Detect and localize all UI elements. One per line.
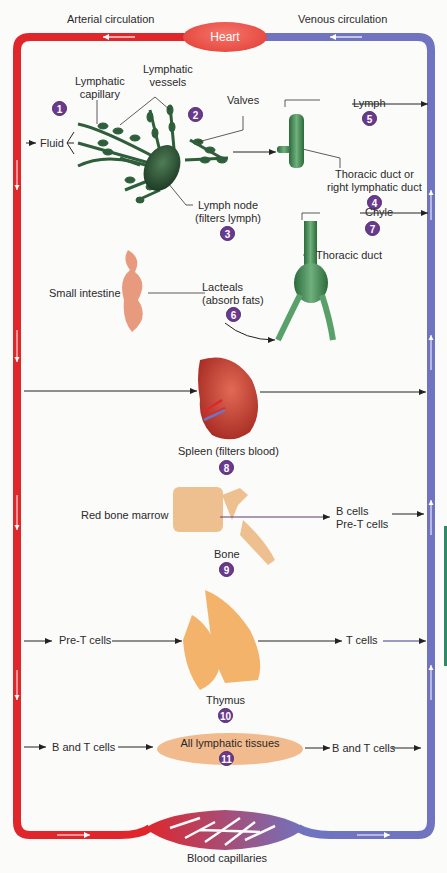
lymph-node-label: Lymph node (filters lymph) bbox=[195, 199, 261, 225]
thoracic-or-right-lymphatic-duct-label: Thoracic duct or right lymphatic duct bbox=[327, 168, 422, 194]
chyle-label: Chyle bbox=[365, 206, 393, 219]
red-bone-marrow-label: Red bone marrow bbox=[81, 509, 168, 522]
b-and-t-cells-output-label: B and T cells bbox=[332, 742, 395, 755]
label-line: vessels bbox=[143, 76, 193, 89]
venous-circulation-vessel bbox=[260, 37, 431, 835]
blood-capillaries-label: Blood capillaries bbox=[187, 852, 267, 865]
t-cells-output-label: T cells bbox=[346, 634, 378, 647]
lymphatic-vessels-label: Lymphatic vessels bbox=[143, 63, 193, 89]
label-line: Lymphatic bbox=[75, 75, 125, 88]
small-intestine-label: Small intestine bbox=[49, 287, 121, 300]
label-line: capillary bbox=[75, 88, 125, 101]
all-lymphatic-tissues-label: All lymphatic tissues bbox=[157, 737, 303, 750]
thymus-shape bbox=[183, 590, 260, 690]
thoracic-duct-shape-upper bbox=[277, 114, 304, 168]
valves-label: Valves bbox=[227, 94, 259, 107]
label-line: (absorb fats) bbox=[202, 294, 264, 307]
lymph-node-shape bbox=[136, 139, 187, 197]
venous-circulation-label: Venous circulation bbox=[298, 13, 387, 26]
step-badge-6: 6 bbox=[226, 307, 241, 322]
thoracic-duct-label: Thoracic duct bbox=[316, 249, 382, 262]
step-badge-8: 8 bbox=[219, 460, 234, 475]
label-line: Lymphatic bbox=[143, 63, 193, 76]
b-and-t-cells-input-label: B and T cells bbox=[52, 741, 115, 754]
small-intestine-shape bbox=[122, 250, 143, 332]
bone-outputs-label: B cells Pre-T cells bbox=[336, 505, 388, 531]
label-line: Thoracic duct or bbox=[327, 168, 422, 181]
label-line: Lymph node bbox=[195, 199, 261, 212]
step-badge-2: 2 bbox=[188, 107, 203, 122]
label-line: (filters lymph) bbox=[195, 212, 261, 225]
label-line: Pre-T cells bbox=[336, 518, 388, 531]
thoracic-duct-shape-lower bbox=[278, 221, 333, 340]
pre-t-cells-input-label: Pre-T cells bbox=[59, 634, 111, 647]
spleen-shape bbox=[198, 358, 258, 440]
label-line: B cells bbox=[336, 505, 388, 518]
blood-capillaries-bed bbox=[145, 810, 305, 850]
bone-label: Bone bbox=[214, 548, 240, 561]
lymph-label: Lymph bbox=[353, 97, 386, 110]
label-line: right lymphatic duct bbox=[327, 181, 422, 194]
step-badge-7: 7 bbox=[365, 221, 380, 236]
spleen-label: Spleen (filters blood) bbox=[178, 445, 279, 458]
step-badge-10: 10 bbox=[218, 708, 233, 723]
lymphatic-capillary-label: Lymphatic capillary bbox=[75, 75, 125, 101]
lacteals-label: Lacteals (absorb fats) bbox=[202, 281, 264, 307]
heart-label: Heart bbox=[210, 30, 239, 44]
fluid-label: Fluid bbox=[40, 137, 64, 150]
step-badge-11: 11 bbox=[219, 751, 234, 766]
step-badge-1: 1 bbox=[52, 101, 67, 116]
step-badge-5: 5 bbox=[362, 111, 377, 126]
step-badge-9: 9 bbox=[219, 562, 234, 577]
label-line: Lacteals bbox=[202, 281, 264, 294]
thymus-label: Thymus bbox=[206, 694, 245, 707]
heart-node: Heart bbox=[183, 22, 267, 52]
arterial-circulation-label: Arterial circulation bbox=[67, 13, 154, 26]
step-badge-3: 3 bbox=[220, 226, 235, 241]
